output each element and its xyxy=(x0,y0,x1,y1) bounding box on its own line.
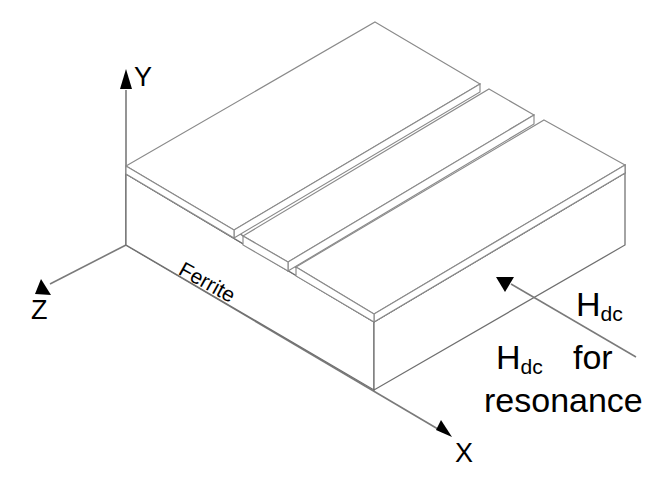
hdc-note-for: for xyxy=(573,340,613,374)
z-axis-label: Z xyxy=(31,297,48,324)
y-axis-label: Y xyxy=(134,64,152,91)
z-axis-line xyxy=(50,245,126,284)
hdc-h-glyph: H xyxy=(576,285,601,323)
x-axis-arrowhead xyxy=(436,420,452,437)
x-axis-label: X xyxy=(455,440,473,467)
hdc-label-secondary: Hdc xyxy=(496,340,543,374)
figure-canvas: Y Z X Ferrite Hdc Hdc for resonance xyxy=(0,0,667,493)
hdc-note-resonance: resonance xyxy=(484,383,643,417)
ferrite-slab-line-drawing xyxy=(0,0,667,493)
z-axis-arrowhead xyxy=(35,279,51,295)
y-axis-arrowhead xyxy=(120,69,132,89)
hdc-subscript-glyph: dc xyxy=(601,302,623,325)
hdc-h-glyph-2: H xyxy=(496,338,521,376)
hdc-label-primary: Hdc xyxy=(576,287,623,321)
hdc-subscript-glyph-2: dc xyxy=(521,355,543,378)
